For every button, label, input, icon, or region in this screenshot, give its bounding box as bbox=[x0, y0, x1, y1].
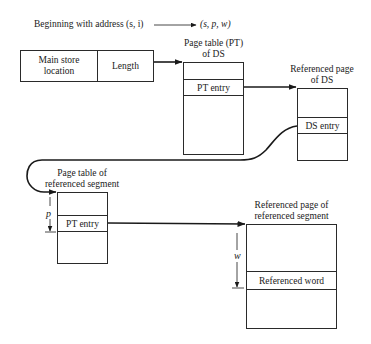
connector-arrows bbox=[0, 0, 371, 344]
pt-entry-to-word-page-arrow bbox=[108, 223, 245, 224]
ds-entry-to-segment-pt-arrow bbox=[27, 126, 297, 192]
